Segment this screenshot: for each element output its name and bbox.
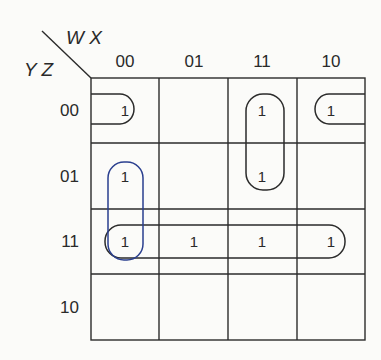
row-header-00: 00 xyxy=(60,101,79,120)
row-header-11: 11 xyxy=(61,232,79,251)
column-header-00: 00 xyxy=(116,52,135,71)
column-header-01: 01 xyxy=(185,52,204,71)
column-variables-label: W X xyxy=(66,27,103,48)
cell-r2-c1: 1 xyxy=(190,233,198,250)
cell-r2-c3: 1 xyxy=(327,233,335,250)
row-header-01: 01 xyxy=(60,167,79,186)
cell-r2-c2: 1 xyxy=(258,233,266,250)
cell-r0-c2: 1 xyxy=(258,102,266,119)
row-variables-label: Y Z xyxy=(24,59,55,80)
row-header-10: 10 xyxy=(60,298,79,317)
column-header-10: 10 xyxy=(322,52,341,71)
group-loop-corner-right xyxy=(315,94,365,124)
cell-r0-c3: 1 xyxy=(327,102,335,119)
cell-r1-c0: 1 xyxy=(121,168,129,185)
karnaugh-map: W X Y Z 00 01 11 10 00 01 11 10 1 1 1 1 … xyxy=(0,0,381,360)
cell-r2-c0: 1 xyxy=(121,233,129,250)
cell-r1-c2: 1 xyxy=(258,168,266,185)
cell-r0-c0: 1 xyxy=(121,102,129,119)
column-header-11: 11 xyxy=(253,52,271,71)
